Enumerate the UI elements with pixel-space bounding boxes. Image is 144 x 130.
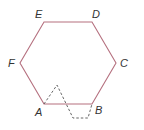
- vertex-label-c: C: [120, 57, 128, 69]
- vertex-label-e: E: [35, 8, 43, 20]
- vertex-label-d: D: [92, 8, 100, 20]
- hexagon-outline: [20, 22, 116, 104]
- hexagon-diagram: E D F C A B: [0, 0, 144, 130]
- vertex-label-f: F: [8, 57, 16, 69]
- dashed-triangle-path: [44, 85, 92, 118]
- vertex-label-a: A: [34, 106, 42, 118]
- vertex-label-b: B: [95, 104, 102, 116]
